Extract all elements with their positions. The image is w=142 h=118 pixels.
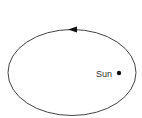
orbit-direction-arrow-icon xyxy=(68,27,77,33)
orbit-diagram: Sun xyxy=(0,0,142,118)
orbit-ellipse xyxy=(8,30,136,116)
sun-dot-icon xyxy=(117,71,121,75)
sun-label: Sun xyxy=(96,69,112,79)
